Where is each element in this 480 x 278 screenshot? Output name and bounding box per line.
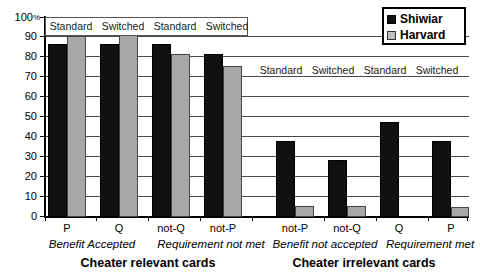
y-tick-label-100: 100%	[0, 12, 40, 23]
gray-square-icon	[387, 31, 396, 40]
x-label-q-irrelevant: Q	[377, 222, 421, 234]
y-axis	[44, 16, 46, 217]
bar-harvard-notp-irrelevant	[295, 206, 314, 217]
x-tickmark	[324, 217, 325, 221]
y-tick-label-30: 30	[0, 151, 37, 162]
bar-harvard-notp-relevant	[223, 66, 242, 217]
condition-label-switched-1: Switched	[97, 20, 149, 32]
x-label-notp-relevant: not-P	[201, 222, 245, 234]
percent-sign: %	[33, 13, 40, 22]
x-label-notq-relevant: not-Q	[149, 222, 193, 234]
bar-shiwiar-notp-relevant	[204, 54, 223, 217]
group-sublabel-requirement-not-met: Requirement not met	[147, 238, 275, 251]
group-sublabel-benefit-not-accepted: Benefit not accepted	[258, 238, 392, 251]
x-label-p-irrelevant: P	[429, 222, 473, 234]
condition-label-switched-3: Switched	[307, 64, 359, 76]
x-label-notq-irrelevant: not-Q	[325, 222, 369, 234]
bar-harvard-q-relevant	[119, 34, 138, 217]
bar-shiwiar-notp-irrelevant	[276, 141, 295, 217]
black-square-icon	[387, 15, 396, 24]
y-tick-label-90: 90	[0, 31, 37, 42]
condition-label-switched-4: Switched	[411, 64, 463, 76]
x-label-p-relevant: P	[45, 222, 89, 234]
legend-item-shiwiar: Shiwiar	[387, 11, 461, 27]
condition-label-standard-3: Standard	[255, 64, 307, 76]
panel-title-cheater-relevant: Cheater relevant cards	[40, 256, 256, 270]
condition-label-standard-4: Standard	[359, 64, 411, 76]
bar-shiwiar-p-relevant	[48, 44, 67, 217]
x-tickmark	[148, 217, 149, 221]
bar-shiwiar-notq-irrelevant	[328, 160, 347, 217]
y-tick-label-40: 40	[0, 131, 37, 142]
x-tickmark	[45, 217, 46, 221]
group-sublabel-benefit-accepted: Benefit Accepted	[37, 238, 147, 251]
group-sublabel-requirement-met: Requirement met	[377, 238, 480, 251]
x-tickmark	[428, 217, 429, 221]
bar-shiwiar-q-relevant	[100, 44, 119, 217]
y-tick-label-70: 70	[0, 71, 37, 82]
bar-harvard-p-irrelevant	[451, 207, 469, 217]
x-label-notp-irrelevant: not-P	[273, 222, 317, 234]
panel-title-cheater-irrelevant: Cheater irrelevant cards	[258, 256, 470, 270]
bar-shiwiar-notq-relevant	[152, 44, 171, 217]
y-tick-label-0: 0	[0, 211, 37, 222]
bar-harvard-notq-irrelevant	[347, 206, 366, 217]
x-tickmark	[467, 217, 468, 221]
legend-label-harvard: Harvard	[400, 29, 445, 42]
condition-label-standard-1: Standard	[45, 20, 97, 32]
x-label-q-relevant: Q	[97, 222, 141, 234]
bar-harvard-notq-relevant	[171, 54, 190, 217]
y-tick-label-60: 60	[0, 91, 37, 102]
legend: Shiwiar Harvard	[382, 7, 466, 45]
x-tickmark	[96, 217, 97, 221]
bar-shiwiar-p-irrelevant	[432, 141, 451, 217]
bar-harvard-p-relevant	[67, 36, 86, 217]
x-tickmark	[252, 217, 253, 221]
y-tick-label-80: 80	[0, 51, 37, 62]
bar-shiwiar-q-irrelevant	[380, 122, 399, 217]
condition-label-standard-2: Standard	[149, 20, 201, 32]
legend-item-harvard: Harvard	[387, 27, 461, 43]
legend-label-shiwiar: Shiwiar	[400, 13, 443, 26]
y-tick-label-20: 20	[0, 171, 37, 182]
y-tick-label-10: 10	[0, 191, 37, 202]
condition-label-switched-2: Switched	[201, 20, 253, 32]
y-tick-label-50: 50	[0, 111, 37, 122]
x-tickmark	[200, 217, 201, 221]
x-tickmark	[376, 217, 377, 221]
